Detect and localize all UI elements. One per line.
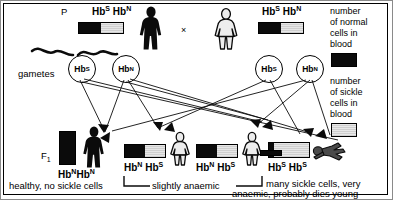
caption-severe-line-2: anaemic, probably dies young — [232, 188, 358, 199]
caption-slightly-anaemic: slightly anaemic — [152, 180, 220, 191]
caption-brackets — [0, 0, 393, 200]
sickle-cell-inheritance-diagram: P HbS HbN × HbS HbN gametes HbS HbN HbS — [0, 0, 393, 200]
